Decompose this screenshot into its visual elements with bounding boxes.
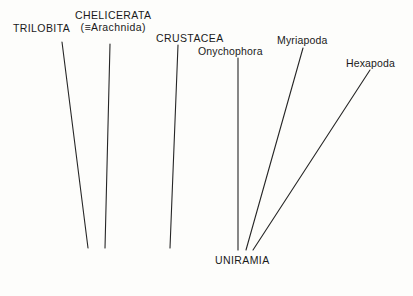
taxon-label-uniramia: UNIRAMIA <box>215 254 270 266</box>
trilobita-branch <box>62 42 88 248</box>
taxon-label-chelicerata: CHELICERATA (≡Arachnida) <box>75 9 151 33</box>
taxon-label-trilobita: TRILOBITA <box>13 22 70 34</box>
taxon-label-chelicerata-synonym: (≡Arachnida) <box>75 21 151 33</box>
taxon-label-hexapoda: Hexapoda <box>346 57 395 69</box>
taxon-label-chelicerata-name: CHELICERATA <box>75 9 151 21</box>
taxon-label-crustacea: CRUSTACEA <box>156 32 224 44</box>
taxon-label-onychophora: Onychophora <box>198 45 263 57</box>
taxon-label-myriapoda: Myriapoda <box>277 34 327 46</box>
crustacea-branch <box>170 45 178 248</box>
chelicerata-branch <box>105 44 110 248</box>
myriapoda-branch <box>246 48 303 250</box>
hexapoda-branch <box>253 70 370 250</box>
